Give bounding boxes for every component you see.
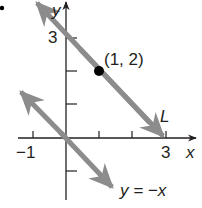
bullet-dot [0,6,4,10]
x-tick-label-neg1: −1 [16,143,35,162]
x-tick-label-3: 3 [161,143,170,162]
line-y-neg-x [60,132,112,187]
graph-canvas: y 3 (1, 2) L −1 3 x y = −x [0,0,202,208]
point-1-2 [94,66,104,76]
point-label: (1, 2) [104,50,144,69]
x-axis-ticks [33,131,166,138]
y-tick-label-3: 3 [48,28,57,47]
line-L-label: L [160,107,169,126]
x-axis-label: x [185,143,195,162]
coordinate-plane-figure: y 3 (1, 2) L −1 3 x y = −x [0,0,202,208]
line-y-neg-x-label: y = −x [119,181,167,200]
line-y-neg-x-upper [21,92,66,138]
y-axis-label: y [51,1,62,20]
